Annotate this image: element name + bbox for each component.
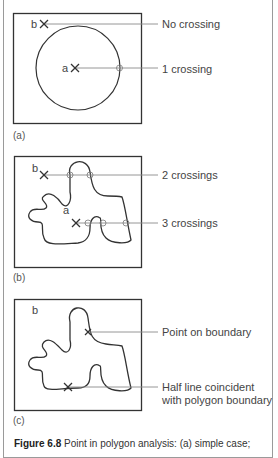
panel-c-graphic [15,300,159,411]
panel-label-c: (c) [13,415,25,426]
point-label-b: b [32,304,38,316]
annotation-2-crossings: 2 crossings [162,169,218,181]
point-label-a: a [62,62,68,74]
annotation-half-line-1: Half line coincident [162,381,254,393]
panel-a-graphic [14,14,159,124]
figure-caption: Figure 6.8 Point in polygon analysis: (a… [14,438,250,449]
caption-text: Point in polygon analysis: (a) simple ca… [61,438,250,449]
annotation-1-crossing: 1 crossing [162,63,212,75]
point-label-b: b [32,162,38,174]
caption-prefix: Figure 6.8 [14,438,61,449]
annotation-no-crossing: No crossing [162,18,220,30]
annotation-3-crossings: 3 crossings [162,217,218,229]
annotation-point-on-boundary: Point on boundary [162,326,251,338]
panel-label-a: (a) [13,130,25,141]
panel-label-b: (b) [13,272,25,283]
point-label-a: a [63,204,69,216]
annotation-half-line-2: with polygon boundary [162,394,272,406]
point-label-b: b [31,18,37,30]
